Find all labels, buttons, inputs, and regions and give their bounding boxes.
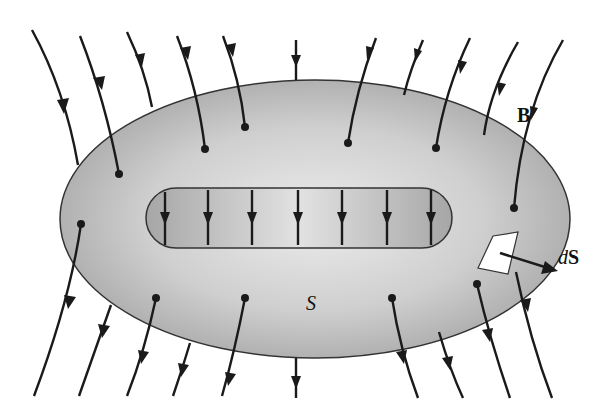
area-element-label-d: d [558, 246, 568, 268]
field-label-b: B [517, 104, 530, 127]
surface-label-s: S [306, 292, 316, 315]
area-element-label-s: S [568, 246, 579, 268]
flux-diagram [0, 0, 610, 416]
area-element-label: dS [558, 246, 579, 269]
